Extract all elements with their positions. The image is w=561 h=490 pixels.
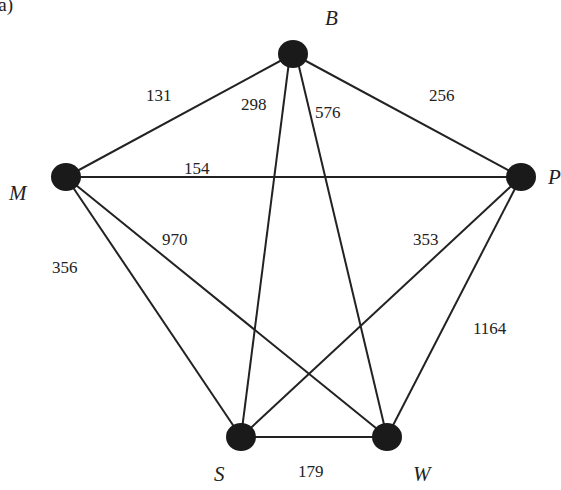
node-label-w: W <box>413 462 431 487</box>
edge-w-p <box>387 177 521 437</box>
node-label-b: B <box>325 6 338 31</box>
node-m <box>51 163 81 191</box>
node-p <box>506 163 536 191</box>
node-label-p: P <box>548 165 561 190</box>
node-label-m: M <box>9 181 27 206</box>
weight-m-s: 356 <box>52 258 78 278</box>
weight-s-w: 179 <box>298 462 324 482</box>
weight-m-w: 970 <box>162 230 188 250</box>
edge-m-w <box>66 177 387 437</box>
weight-s-p: 353 <box>413 230 439 250</box>
node-w <box>372 423 402 451</box>
edge-s-p <box>241 177 521 437</box>
weight-m-p: 154 <box>184 159 210 179</box>
edge-m-s <box>66 177 241 437</box>
node-label-s: S <box>214 462 225 487</box>
edge-m-b <box>66 54 293 177</box>
weight-m-b: 131 <box>146 86 172 106</box>
weight-w-b: 576 <box>315 103 341 123</box>
figure-label: (a) <box>0 0 13 16</box>
weight-s-b: 298 <box>241 95 267 115</box>
weight-b-p: 256 <box>429 86 455 106</box>
node-s <box>226 423 256 451</box>
edge-w-b <box>296 54 387 437</box>
weight-w-p: 1164 <box>473 319 506 339</box>
node-b <box>278 40 308 68</box>
